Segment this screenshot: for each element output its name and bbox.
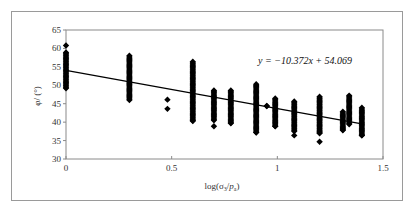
scatter-chart: 3035404550556065 00.511.5 y = −10.372x +…: [0, 0, 412, 211]
y-tick-label: 60: [52, 43, 62, 53]
x-tick-label: 0: [64, 163, 69, 173]
x-tick-label: 1: [275, 163, 280, 173]
plot-area: [66, 30, 383, 159]
regression-equation: y = −10.372x + 54.069: [257, 55, 352, 66]
y-tick-label: 45: [52, 99, 62, 109]
x-tick-label: 0.5: [166, 163, 178, 173]
y-tick-label: 30: [52, 154, 62, 164]
y-tick-label: 55: [52, 62, 62, 72]
x-tick-label: 1.5: [377, 163, 389, 173]
x-axis-title: log(σ3/pa): [204, 181, 239, 192]
y-tick-label: 40: [52, 117, 62, 127]
y-tick-label: 50: [52, 80, 62, 90]
y-axis-title: φ/ (°): [32, 86, 42, 106]
y-tick-label: 35: [52, 136, 62, 146]
y-tick-label: 65: [52, 25, 62, 35]
